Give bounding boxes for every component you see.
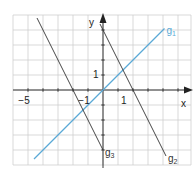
x-tick-label: 1	[121, 95, 127, 106]
coordinate-plot: x y −5−111 g1g2g3	[0, 0, 196, 179]
series-labels: g1g2g3	[105, 25, 178, 166]
series-line-g3	[37, 18, 103, 150]
plot-canvas: x y −5−111 g1g2g3	[0, 0, 196, 179]
series-lines	[34, 18, 166, 159]
x-tick-label: −1	[78, 95, 90, 106]
x-tick-label: −5	[18, 95, 30, 106]
series-label-g2: g2	[168, 153, 178, 165]
y-tick-label: 1	[93, 69, 99, 80]
series-label-g3: g3	[105, 147, 115, 159]
y-axis-arrow-icon	[100, 13, 107, 23]
x-axis-arrow-icon	[184, 87, 193, 94]
series-line-g1	[34, 29, 165, 160]
series-label-g1: g1	[167, 25, 177, 37]
x-axis-label: x	[181, 98, 186, 109]
y-axis-label: y	[89, 17, 94, 28]
